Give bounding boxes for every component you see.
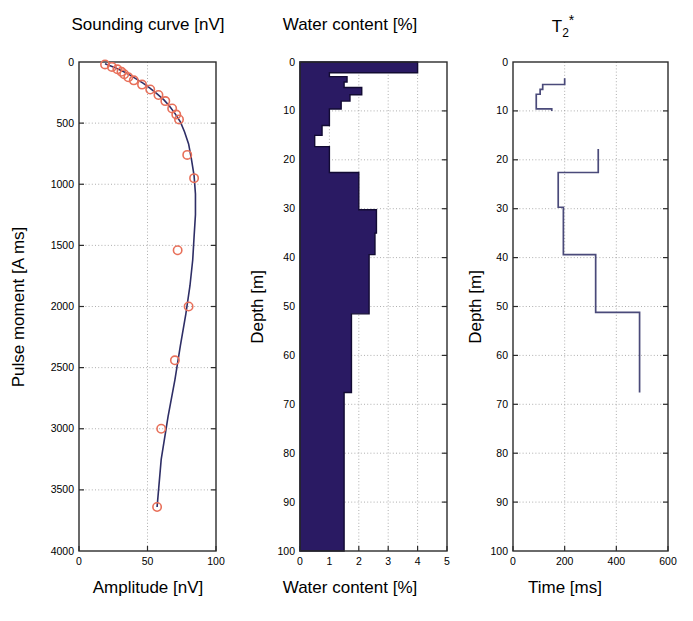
data-point-marker <box>173 246 181 254</box>
t2star-title-superscript: * <box>569 12 575 28</box>
y-tick-label: 80 <box>283 447 295 459</box>
y-tick-label: 100 <box>277 545 295 557</box>
y-tick-label: 10 <box>283 104 295 116</box>
t2star-step-line <box>536 78 639 392</box>
y-tick-label: 1500 <box>51 239 75 251</box>
y-tick-label: 100 <box>490 545 508 557</box>
y-tick-label: 30 <box>496 202 508 214</box>
y-tick-label: 2000 <box>51 300 75 312</box>
x-tick-label: 3 <box>385 555 391 567</box>
x-tick-label: 400 <box>608 555 626 567</box>
y-tick-label: 40 <box>496 251 508 263</box>
y-tick-label: 3000 <box>51 422 75 434</box>
sounding-xlabel: Amplitude [nV] <box>93 578 204 597</box>
y-tick-label: 1000 <box>51 178 75 190</box>
sounding-ticks: 05010005001000150020002500300035004000 <box>51 56 225 568</box>
y-tick-label: 90 <box>283 496 295 508</box>
sounding-fit-line <box>105 64 195 507</box>
y-tick-label: 3500 <box>51 483 75 495</box>
y-tick-label: 500 <box>56 117 74 129</box>
t2star-gridlines <box>513 62 668 551</box>
x-tick-label: 100 <box>207 555 225 567</box>
water-ylabel: Depth [m] <box>248 270 267 344</box>
x-tick-label: 5 <box>444 555 450 567</box>
y-tick-label: 20 <box>283 153 295 165</box>
y-tick-label: 4000 <box>51 545 75 557</box>
y-tick-label: 10 <box>496 104 508 116</box>
t2star-title-subscript: 2 <box>562 26 569 40</box>
nmr-sounding-figure: Sounding curve [nV] Amplitude [nV] Pulse… <box>0 0 693 621</box>
panel-t2star: T2* Time [ms] Depth [m] 0200400600010203… <box>455 0 693 621</box>
t2star-xlabel: Time [ms] <box>528 578 602 597</box>
y-tick-label: 50 <box>496 300 508 312</box>
water-content-plot: Water content [%] Water content [%] Dept… <box>240 0 458 621</box>
x-tick-label: 0 <box>76 555 82 567</box>
x-tick-label: 600 <box>659 555 677 567</box>
sounding-ylabel: Pulse moment [A ms] <box>9 227 28 388</box>
panel-sounding-curve: Sounding curve [nV] Amplitude [nV] Pulse… <box>0 0 240 621</box>
y-tick-label: 2500 <box>51 361 75 373</box>
t2star-ylabel: Depth [m] <box>466 270 485 344</box>
y-tick-label: 90 <box>496 496 508 508</box>
water-title: Water content [%] <box>283 15 417 34</box>
sounding-curve-plot: Sounding curve [nV] Amplitude [nV] Pulse… <box>0 0 240 621</box>
t2star-title: T2* <box>552 12 575 40</box>
x-tick-label: 2 <box>356 555 362 567</box>
panel-water-content: Water content [%] Water content [%] Dept… <box>240 0 458 621</box>
y-tick-label: 0 <box>289 56 295 68</box>
x-tick-label: 1 <box>326 555 332 567</box>
y-tick-label: 0 <box>68 56 74 68</box>
t2star-plot: T2* Time [ms] Depth [m] 0200400600010203… <box>455 0 693 621</box>
x-tick-label: 0 <box>297 555 303 567</box>
y-tick-label: 60 <box>283 349 295 361</box>
x-tick-label: 4 <box>415 555 421 567</box>
x-tick-label: 0 <box>510 555 516 567</box>
sounding-gridlines <box>79 62 216 551</box>
y-tick-label: 70 <box>283 398 295 410</box>
y-tick-label: 0 <box>502 56 508 68</box>
y-tick-label: 20 <box>496 153 508 165</box>
data-point-marker <box>157 425 165 433</box>
y-tick-label: 70 <box>496 398 508 410</box>
y-tick-label: 80 <box>496 447 508 459</box>
x-tick-label: 50 <box>142 555 154 567</box>
x-tick-label: 200 <box>556 555 574 567</box>
sounding-axes-frame <box>79 62 216 551</box>
y-tick-label: 30 <box>283 202 295 214</box>
t2star-title-base: T <box>552 17 562 36</box>
data-point-marker <box>146 85 154 93</box>
sounding-title: Sounding curve [nV] <box>71 15 224 34</box>
y-tick-label: 60 <box>496 349 508 361</box>
y-tick-label: 50 <box>283 300 295 312</box>
y-tick-label: 40 <box>283 251 295 263</box>
water-xlabel: Water content [%] <box>283 578 417 597</box>
t2star-ticks: 02004006000102030405060708090100 <box>490 56 676 568</box>
